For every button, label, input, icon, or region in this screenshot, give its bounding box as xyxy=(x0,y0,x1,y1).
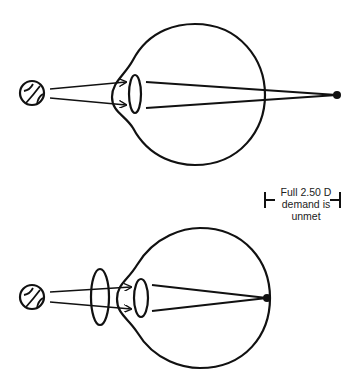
demand-annotation-label: Full 2.50 D demand is unmet xyxy=(276,186,336,222)
ball-icon xyxy=(20,285,44,309)
crystalline-lens xyxy=(134,279,148,317)
annotation-line: Full 2.50 D xyxy=(276,186,336,198)
focal-point xyxy=(333,91,341,99)
refracted-ray xyxy=(152,298,267,311)
corrective-plus-lens xyxy=(91,269,109,325)
annotation-line: unmet xyxy=(276,210,336,222)
light-ray-arrow xyxy=(50,98,126,105)
annotation-line: demand is xyxy=(276,198,336,210)
crystalline-lens xyxy=(129,75,141,113)
top-eye-diagram xyxy=(20,24,341,165)
refracted-ray xyxy=(152,285,267,298)
refracted-ray xyxy=(146,82,337,95)
focal-point xyxy=(263,294,271,302)
ball-icon xyxy=(20,81,44,105)
refracted-ray xyxy=(146,95,337,108)
eyeball-outline xyxy=(117,228,270,368)
eyeball-outline xyxy=(112,24,265,165)
bottom-eye-diagram xyxy=(20,228,271,368)
